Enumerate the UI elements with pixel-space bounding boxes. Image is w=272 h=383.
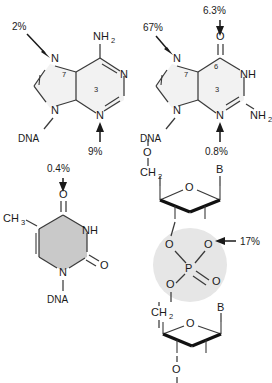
thymine-methyl-bond (26, 220, 37, 226)
adenine-n7-number: 7 (62, 70, 66, 79)
phosphate-ester-oxygen-bottom: O (166, 278, 175, 290)
adenine-n7-annotation: 2% (12, 21, 50, 58)
adenine-n9-label: N (51, 104, 59, 116)
thymine-methyl-label: CH (3, 212, 19, 224)
top-ch2-subscript: 2 (158, 172, 162, 181)
thymine-methyl-subscript: 3 (21, 218, 25, 227)
adenine-amino-subscript: 2 (111, 36, 115, 45)
guanine-n1h-label: NH (240, 68, 256, 80)
phosphoryl-oxygen-label: O (212, 275, 221, 287)
adenine-dna-label: DNA (18, 133, 39, 144)
bottom-sugar-ring: CH 2 O B O (151, 292, 224, 383)
bottom-terminal-oxygen-label: O (172, 363, 181, 375)
guanine-dna-label: DNA (140, 133, 161, 144)
thymine-o4-percent: 0.4% (47, 163, 70, 174)
adenine-dna-bond (44, 118, 53, 129)
thymine-structure: O O CH 3 NH N DNA 0.4% (3, 163, 109, 305)
adenine-structure: NH 2 N 7 N 3 N N DNA 2% 9% (12, 21, 128, 157)
guanine-amino-label: NH (250, 109, 266, 121)
thymine-n1-label: N (59, 266, 67, 278)
guanine-n3-number: 3 (215, 85, 219, 94)
thymine-o4-carbonyl: O (59, 188, 68, 212)
top-ring-oxygen-label: O (185, 181, 194, 193)
thymine-o2-label: O (100, 259, 109, 271)
guanine-n3-label: N (216, 109, 224, 121)
phosphate-percent: 17% (240, 236, 260, 247)
top-terminal-oxygen-label: O (143, 146, 152, 158)
guanine-amino-subscript: 2 (268, 115, 272, 124)
bottom-ch2-label: CH (151, 306, 167, 318)
phosphorus-label: P (185, 262, 192, 274)
guanine-structure: O 6 NH NH 2 N 7 N 3 N DNA 6.3% 67% (140, 5, 272, 157)
guanine-n7-label: N (173, 52, 181, 64)
guanine-n3-percent: 0.8% (205, 146, 228, 157)
thymine-o2-carbonyl: O (86, 255, 109, 271)
guanine-n7-percent: 67% (143, 22, 163, 33)
top-base-label: B (216, 163, 223, 175)
phosphate-ester-oxygen-left: O (165, 238, 174, 250)
adenine-n7-label: N (51, 52, 59, 64)
guanine-c6-number: 6 (214, 62, 218, 71)
guanine-n7-number: 7 (184, 70, 188, 79)
guanine-n9-label: N (173, 104, 181, 116)
guanine-n3-annotation: 0.8% (205, 122, 228, 157)
thymine-dna-label: DNA (47, 294, 68, 305)
guanine-dna-bond (166, 118, 175, 129)
top-ch2-label: CH (140, 166, 156, 178)
adenine-n1-label: N (120, 68, 128, 80)
dna-alkylation-figure: NH 2 N 7 N 3 N N DNA 2% 9% (0, 0, 272, 383)
adenine-n3-label: N (96, 109, 104, 121)
bottom-ring-oxygen-label: O (186, 317, 195, 329)
adenine-n7-percent: 2% (12, 21, 27, 32)
adenine-n3-number: 3 (94, 85, 98, 94)
adenine-n3-percent: 9% (88, 146, 103, 157)
phosphodiester-structure: O CH 2 O B O O P (140, 139, 260, 383)
thymine-n3h-label: NH (82, 224, 98, 236)
bottom-ch2-subscript: 2 (169, 312, 173, 321)
bottom-base-label: B (217, 301, 224, 313)
adenine-n3-annotation: 9% (88, 122, 104, 157)
phosphate-ester-oxygen-right: O (204, 238, 213, 250)
guanine-n7-annotation: 67% (143, 22, 173, 55)
adenine-amino-label: NH (93, 30, 109, 42)
guanine-o6-percent: 6.3% (203, 5, 226, 16)
phosphate-annotation: 17% (215, 236, 260, 247)
